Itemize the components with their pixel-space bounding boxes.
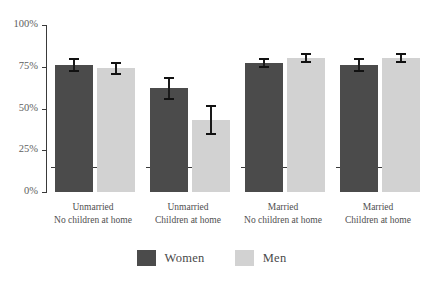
bar-men[interactable]	[287, 58, 325, 192]
error-bar-cap-bottom	[111, 73, 121, 75]
error-bar-cap-bottom	[396, 61, 406, 63]
x-axis-group-label: MarriedChildren at home	[322, 201, 423, 226]
y-axis-tick-label: 75%	[0, 61, 38, 71]
bar-women[interactable]	[150, 88, 188, 192]
y-axis-tick-label: 0%	[0, 186, 38, 196]
y-axis-tick	[42, 192, 47, 193]
bar-group	[336, 0, 420, 167]
bar-men[interactable]	[382, 58, 420, 192]
y-axis-tick	[42, 25, 47, 26]
bar-women[interactable]	[245, 63, 283, 192]
bar-women[interactable]	[55, 65, 93, 192]
error-bar-cap-bottom	[259, 66, 269, 68]
error-bar-stem	[210, 105, 212, 135]
bar-chart: 0%25%50%75%100% UnmarriedNo children at …	[0, 0, 423, 284]
bar-group	[146, 0, 230, 167]
y-axis-tick-label: 100%	[0, 19, 38, 29]
bar-men[interactable]	[97, 68, 135, 192]
legend-swatch-women-icon	[137, 250, 156, 266]
error-bar-cap-top	[164, 77, 174, 79]
y-axis-tick-label: 25%	[0, 144, 38, 154]
error-bar-cap-top	[396, 53, 406, 55]
x-label-line-2: Children at home	[322, 214, 423, 227]
error-bar-cap-top	[206, 105, 216, 107]
error-bar-cap-bottom	[206, 133, 216, 135]
error-bar-cap-bottom	[301, 61, 311, 63]
bar-group	[241, 0, 325, 167]
legend-label-men: Men	[263, 251, 287, 266]
error-bar-cap-bottom	[69, 70, 79, 72]
error-bar-cap-bottom	[164, 98, 174, 100]
y-axis-tick	[42, 109, 47, 110]
error-bar-cap-top	[354, 58, 364, 60]
y-axis-tick-label: 50%	[0, 103, 38, 113]
legend-swatch-men-icon	[235, 250, 254, 266]
error-bar-cap-top	[301, 53, 311, 55]
bar-group	[51, 0, 135, 167]
error-bar-stem	[168, 77, 170, 100]
legend-label-women: Women	[165, 251, 205, 266]
error-bar-cap-top	[69, 58, 79, 60]
y-axis-tick	[42, 67, 47, 68]
chart-legend: Women Men	[0, 250, 423, 266]
error-bar-cap-top	[259, 58, 269, 60]
legend-item-women: Women	[137, 250, 205, 266]
y-axis-tick	[42, 150, 47, 151]
x-label-line-1: Married	[322, 201, 423, 214]
error-bar-cap-top	[111, 62, 121, 64]
bar-women[interactable]	[340, 65, 378, 192]
error-bar-cap-bottom	[354, 70, 364, 72]
legend-item-men: Men	[235, 250, 287, 266]
